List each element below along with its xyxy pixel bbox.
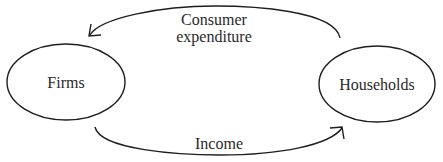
consumer-expenditure-label-line1: Consumer <box>181 11 247 28</box>
households-label: Households <box>339 76 415 93</box>
circular-flow-diagram: Firms Households Consumer expenditure In… <box>0 0 443 162</box>
income-arrow: Income <box>95 127 344 155</box>
income-label: Income <box>195 135 243 152</box>
consumer-expenditure-label-line2: expenditure <box>176 28 252 46</box>
firms-label: Firms <box>47 74 84 91</box>
firms-node: Firms <box>7 44 125 120</box>
households-node: Households <box>319 46 435 122</box>
consumer-expenditure-arrow: Consumer expenditure <box>89 6 340 46</box>
